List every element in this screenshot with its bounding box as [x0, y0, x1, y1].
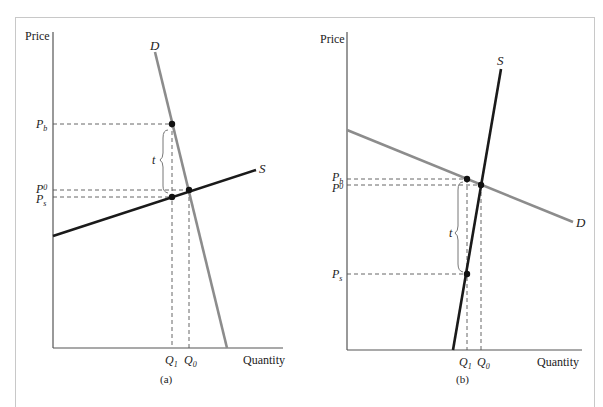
panel-b-supply-curve [453, 69, 501, 350]
panel-b-demand-curve [347, 130, 573, 222]
panel-a-x-axis-label: Quantity [243, 353, 285, 367]
panel-b-ps-label: Ps [331, 267, 342, 283]
panel-a-tax-brace [160, 130, 168, 193]
panel-a-seller-price-point [169, 194, 175, 200]
panel-a-tax-label: t [152, 153, 156, 167]
panel-b: Price Quantity S D t Pb P0 Ps Q1 Q0 (b) [320, 32, 586, 386]
panel-b-y-axis-label: Price [320, 32, 345, 46]
panel-a-q0-label: Q0 [184, 353, 197, 369]
panel-a-dashed-guides [53, 124, 189, 348]
panel-a-demand-label: D [149, 38, 160, 53]
panel-b-p0-label: P0 [331, 181, 343, 195]
panel-b-equilibrium-point [478, 182, 484, 188]
panel-b-tax-label: t [449, 226, 453, 240]
panel-a: Price Quantity D S t Pb P0 Ps Q1 Q0 (a) [25, 29, 285, 386]
panel-b-q1-label: Q1 [459, 355, 472, 371]
panel-a-supply-label: S [259, 161, 266, 176]
panel-a-ps-label: Ps [35, 192, 46, 208]
panel-a-pb-label: Pb [35, 117, 47, 133]
panel-b-seller-price-point [464, 271, 470, 277]
panel-b-demand-label: D [575, 215, 586, 230]
panel-b-supply-label: S [497, 53, 504, 68]
panel-b-x-axis-label: Quantity [537, 355, 579, 369]
panel-a-y-axis-label: Price [25, 29, 50, 43]
panel-b-dashed-guides [347, 179, 481, 350]
panel-a-equilibrium-point [186, 187, 192, 193]
panel-a-q1-label: Q1 [165, 353, 178, 369]
panel-a-supply-curve [53, 170, 256, 236]
panel-a-buyer-price-point [169, 121, 175, 127]
panel-b-tax-brace [455, 182, 463, 272]
panel-b-buyer-price-point [464, 176, 470, 182]
panel-b-q0-label: Q0 [477, 355, 490, 371]
panel-b-caption: (b) [456, 373, 469, 386]
panel-a-caption: (a) [160, 373, 173, 386]
